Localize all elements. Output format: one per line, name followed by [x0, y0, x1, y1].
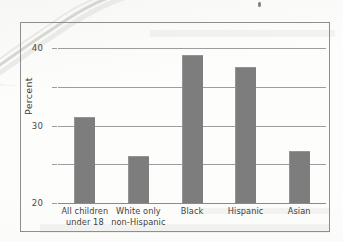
- x-axis-category-label: Hispanic: [228, 206, 264, 217]
- bar: [128, 156, 149, 203]
- y-axis-tick-label: 30: [32, 121, 43, 131]
- y-axis-tick: 30: [52, 87, 57, 88]
- category-label-line2: under 18: [61, 217, 108, 228]
- x-axis-category-label: Black: [181, 206, 204, 217]
- category-label-line1: Black: [181, 206, 204, 216]
- y-axis-tick-label: 40: [32, 43, 43, 53]
- category-label-line1: Asian: [288, 206, 311, 216]
- y-axis-tick: 20: [52, 126, 57, 127]
- category-label-line1: White only: [116, 206, 161, 216]
- category-label-line1: Hispanic: [228, 206, 264, 216]
- category-label-line2: non-Hispanic: [111, 217, 165, 228]
- x-axis-category-label: Asian: [288, 206, 311, 217]
- x-axis-category-label: White onlynon-Hispanic: [111, 206, 165, 227]
- y-axis-tick: 10: [52, 164, 57, 165]
- y-axis-title: Percent: [23, 77, 34, 115]
- scanned-page: Percent 010203040 All childrenunder 18Wh…: [0, 0, 343, 242]
- y-axis-tick: 40: [52, 48, 57, 49]
- bar: [74, 117, 95, 203]
- bar: [289, 151, 310, 203]
- plot-area: 010203040: [58, 48, 326, 203]
- category-label-line1: All children: [61, 206, 108, 216]
- x-axis-category-label: All childrenunder 18: [61, 206, 108, 227]
- y-axis-tick-label: 20: [32, 198, 43, 208]
- x-axis-baseline: [58, 203, 326, 204]
- y-axis-tick: 0: [52, 203, 57, 204]
- x-axis-labels: All childrenunder 18White onlynon-Hispan…: [58, 206, 326, 232]
- bar-chart: Percent 010203040 All childrenunder 18Wh…: [20, 22, 330, 232]
- gridline: [58, 48, 326, 49]
- bar: [235, 67, 256, 203]
- bar: [182, 55, 203, 203]
- ink-speck-artifact: [258, 2, 261, 7]
